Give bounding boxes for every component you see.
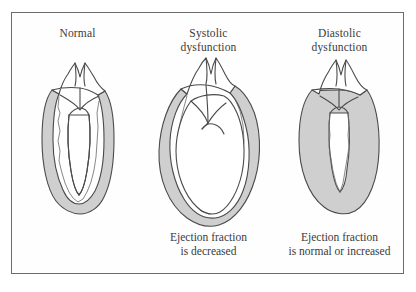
panel-title-diastolic: Diastolic dysfunction bbox=[274, 27, 405, 54]
heart-diagram-systolic bbox=[147, 55, 271, 235]
panel-title-line: Diastolic bbox=[274, 27, 405, 41]
panel-title-normal: Normal bbox=[12, 27, 143, 41]
caption-line: Ejection fraction bbox=[272, 230, 407, 244]
caption-systolic: Ejection fraction is decreased bbox=[143, 230, 274, 258]
atrial-outline-systolic bbox=[181, 58, 235, 94]
caption-line: is normal or increased bbox=[272, 244, 407, 258]
caption-diastolic: Ejection fraction is normal or increased bbox=[272, 230, 407, 258]
panel-title-line: dysfunction bbox=[274, 41, 405, 55]
ventricular-cavity-systolic bbox=[176, 95, 244, 214]
heart-diagram-diastolic bbox=[284, 55, 396, 227]
caption-line: is decreased bbox=[143, 244, 274, 258]
heart-diagram-normal bbox=[25, 55, 129, 225]
figure-frame: Normal bbox=[11, 12, 404, 274]
panel-title-systolic: Systolic dysfunction bbox=[143, 27, 274, 54]
panel-title-line: Systolic bbox=[143, 27, 274, 41]
atrial-outline-normal bbox=[52, 63, 105, 95]
panel-normal: Normal bbox=[12, 13, 143, 273]
panel-title-line: Normal bbox=[12, 27, 143, 41]
ventricular-cavity-normal bbox=[68, 115, 90, 195]
caption-line: Ejection fraction bbox=[143, 230, 274, 244]
panel-title-line: dysfunction bbox=[143, 41, 274, 55]
